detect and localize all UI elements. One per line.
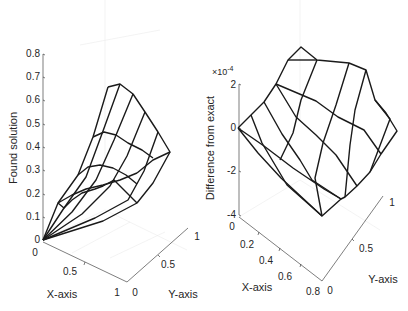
z-tick: 0.4 — [26, 141, 40, 152]
x-tick: 0.6 — [278, 271, 292, 282]
left-x-label: X-axis — [47, 288, 78, 300]
left-x-axis: 0 0.5 1 X-axis — [32, 242, 127, 300]
z-tick: -4 — [227, 209, 236, 220]
x-tick: 0 — [32, 247, 38, 258]
x-tick: 0.2 — [240, 239, 254, 250]
y-tick: 0 — [327, 285, 333, 296]
y-tick: 0.5 — [359, 243, 373, 254]
left-surface-mesh — [43, 84, 170, 240]
right-x-label: X-axis — [242, 281, 273, 293]
x-tick: 0.8 — [306, 286, 320, 297]
left-z-axis: 0.8 0.7 0.6 0.5 0.4 0.3 0.2 0.1 0 Found … — [7, 48, 45, 245]
x-tick: 0 — [229, 221, 235, 232]
x-tick: 1 — [114, 287, 120, 298]
right-y-label: Y-axis — [368, 273, 398, 285]
x-tick: 0.5 — [63, 266, 77, 277]
z-tick: 0.7 — [26, 71, 40, 82]
left-y-label: Y-axis — [168, 288, 198, 300]
y-tick: 1 — [389, 197, 395, 208]
z-tick: 0.6 — [26, 94, 40, 105]
right-surface-mesh — [238, 47, 397, 216]
y-tick: 1 — [194, 231, 200, 242]
right-x-axis: 0 0.2 0.4 0.6 0.8 X-axis — [229, 217, 322, 297]
z-tick: 2 — [230, 79, 236, 90]
right-grid — [237, 0, 380, 230]
z-tick: 0.2 — [26, 188, 40, 199]
y-tick: 0 — [132, 287, 138, 298]
left-plot: 0.8 0.7 0.6 0.5 0.4 0.3 0.2 0.1 0 Found … — [7, 0, 200, 300]
z-tick: -2 — [227, 165, 236, 176]
right-z-axis: 2 0 -2 -4 ×10-4 Difference from exact — [204, 65, 241, 220]
z-tick: 0 — [230, 122, 236, 133]
right-y-axis: 0 0.5 1 Y-axis — [322, 196, 398, 296]
z-tick: 0.3 — [26, 164, 40, 175]
x-tick: 0.4 — [259, 255, 273, 266]
z-tick: 0.1 — [26, 211, 40, 222]
right-plot: 2 0 -2 -4 ×10-4 Difference from exact 0 … — [204, 0, 398, 297]
right-z-label: Difference from exact — [204, 96, 216, 200]
y-tick: 0.5 — [161, 259, 175, 270]
z-tick: 0.5 — [26, 118, 40, 129]
left-z-label: Found solution — [7, 112, 19, 184]
z-tick: 0.8 — [26, 48, 40, 59]
z-multiplier: ×10-4 — [212, 65, 234, 77]
z-tick: 0 — [34, 234, 40, 245]
figure: 0.8 0.7 0.6 0.5 0.4 0.3 0.2 0.1 0 Found … — [0, 0, 408, 311]
